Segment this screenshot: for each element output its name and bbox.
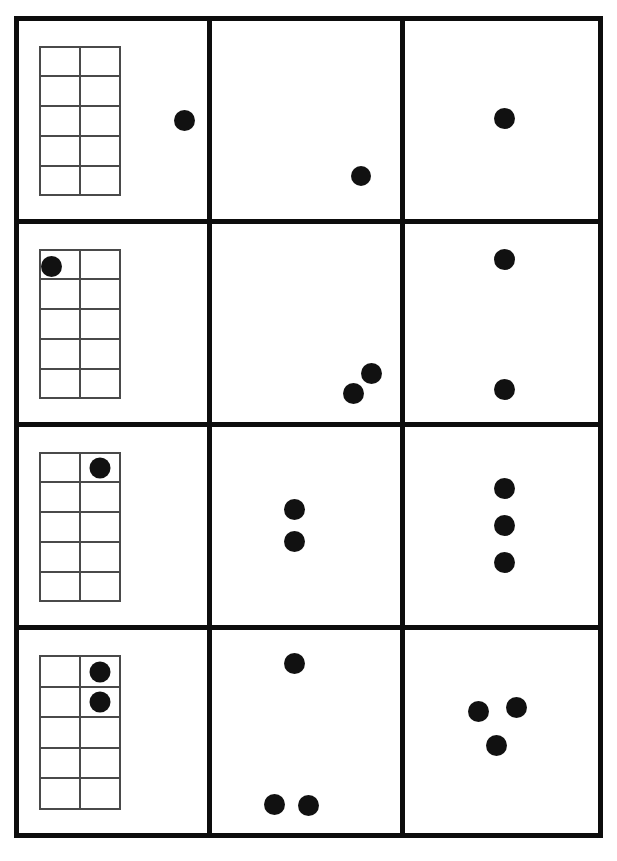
ten-frame-cell-10[interactable] <box>81 779 121 809</box>
ten-frame-cell-2[interactable] <box>81 251 121 281</box>
ten-frame-cell-4[interactable] <box>81 280 121 310</box>
ten-frame-r1c1[interactable] <box>39 46 122 196</box>
ten-frame-cell-5[interactable] <box>41 513 81 543</box>
counter-dot-icon <box>494 249 515 270</box>
ten-frame-cell-8[interactable] <box>81 543 121 573</box>
worksheet-cell-r3c1[interactable] <box>19 427 212 630</box>
worksheet-cell-r1c1[interactable] <box>19 21 212 224</box>
counter-dot-icon <box>494 108 515 129</box>
counter-dot-icon <box>494 552 515 573</box>
ten-frame-cell-6[interactable] <box>81 718 121 748</box>
ten-frame-cell-1[interactable] <box>41 48 81 78</box>
ten-frame-cell-4[interactable] <box>81 77 121 107</box>
ten-frame-cell-1[interactable] <box>41 657 81 687</box>
ten-frame-cell-1[interactable] <box>41 454 81 484</box>
worksheet-cell-r1c2[interactable] <box>212 21 405 224</box>
worksheet-cell-r3c3[interactable] <box>405 427 598 630</box>
counter-dot-icon <box>506 697 527 718</box>
ten-frame-cell-8[interactable] <box>81 340 121 370</box>
ten-frame-r3c1[interactable] <box>39 452 122 602</box>
ten-frame-cell-2[interactable] <box>81 657 121 687</box>
worksheet-cell-r1c3[interactable] <box>405 21 598 224</box>
counter-dot-icon <box>468 701 489 722</box>
ten-frame-cell-8[interactable] <box>81 749 121 779</box>
counter-dot-icon <box>494 478 515 499</box>
ten-frame-cell-7[interactable] <box>41 749 81 779</box>
counter-dot-icon <box>264 794 285 815</box>
ten-frame-cell-6[interactable] <box>81 310 121 340</box>
worksheet-cell-grid <box>19 21 598 833</box>
ten-frame-cell-3[interactable] <box>41 483 81 513</box>
worksheet-cell-r4c3[interactable] <box>405 630 598 833</box>
ten-frame-cell-8[interactable] <box>81 137 121 167</box>
worksheet-outer-frame <box>14 16 603 838</box>
ten-frame-cell-4[interactable] <box>81 688 121 718</box>
ten-frame-cell-2[interactable] <box>81 454 121 484</box>
ten-frame-cell-6[interactable] <box>81 107 121 137</box>
ten-frame-cell-9[interactable] <box>41 779 81 809</box>
counter-dot-icon <box>284 531 305 552</box>
counter-dot-icon <box>90 661 111 682</box>
ten-frame-cell-5[interactable] <box>41 718 81 748</box>
ten-frame-cell-3[interactable] <box>41 688 81 718</box>
worksheet-cell-r2c3[interactable] <box>405 224 598 427</box>
counter-dot-icon <box>298 795 319 816</box>
ten-frame-cell-7[interactable] <box>41 137 81 167</box>
ten-frame-cell-3[interactable] <box>41 280 81 310</box>
counter-dot-icon <box>174 110 195 131</box>
counter-dot-icon <box>494 515 515 536</box>
counter-dot-icon <box>90 457 111 478</box>
worksheet-cell-r3c2[interactable] <box>212 427 405 630</box>
worksheet-page <box>0 0 617 861</box>
ten-frame-cell-5[interactable] <box>41 310 81 340</box>
worksheet-cell-r2c1[interactable] <box>19 224 212 427</box>
ten-frame-cell-10[interactable] <box>81 370 121 400</box>
ten-frame-cell-10[interactable] <box>81 167 121 197</box>
ten-frame-cell-9[interactable] <box>41 370 81 400</box>
ten-frame-cell-7[interactable] <box>41 543 81 573</box>
worksheet-cell-r2c2[interactable] <box>212 224 405 427</box>
ten-frame-r4c1[interactable] <box>39 655 122 809</box>
ten-frame-cell-3[interactable] <box>41 77 81 107</box>
counter-dot-icon <box>343 383 364 404</box>
ten-frame-cell-5[interactable] <box>41 107 81 137</box>
ten-frame-cell-9[interactable] <box>41 167 81 197</box>
ten-frame-cell-4[interactable] <box>81 483 121 513</box>
counter-dot-icon <box>486 735 507 756</box>
counter-dot-icon <box>361 363 382 384</box>
counter-dot-icon <box>351 166 371 186</box>
ten-frame-cell-10[interactable] <box>81 573 121 603</box>
counter-dot-icon <box>90 692 111 713</box>
counter-dot-icon <box>284 653 305 674</box>
counter-dot-icon <box>494 379 515 400</box>
ten-frame-cell-2[interactable] <box>81 48 121 78</box>
ten-frame-cell-9[interactable] <box>41 573 81 603</box>
worksheet-cell-r4c1[interactable] <box>19 630 212 833</box>
worksheet-cell-r4c2[interactable] <box>212 630 405 833</box>
ten-frame-cell-6[interactable] <box>81 513 121 543</box>
counter-dot-icon <box>284 499 305 520</box>
ten-frame-cell-7[interactable] <box>41 340 81 370</box>
